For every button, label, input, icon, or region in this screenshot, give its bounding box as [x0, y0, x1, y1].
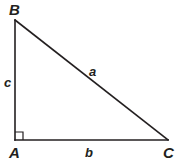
- side-label-c: c: [4, 76, 11, 89]
- side-label-b: b: [85, 146, 93, 159]
- side-label-a: a: [89, 65, 96, 78]
- vertex-label-a: A: [9, 145, 20, 160]
- right-angle-marker: [15, 132, 23, 140]
- side-a-line: [15, 20, 168, 140]
- vertex-label-c: C: [163, 145, 174, 160]
- right-triangle-figure: B A C c a b: [0, 0, 178, 162]
- vertex-label-b: B: [9, 2, 20, 17]
- triangle-drawing: [0, 0, 178, 162]
